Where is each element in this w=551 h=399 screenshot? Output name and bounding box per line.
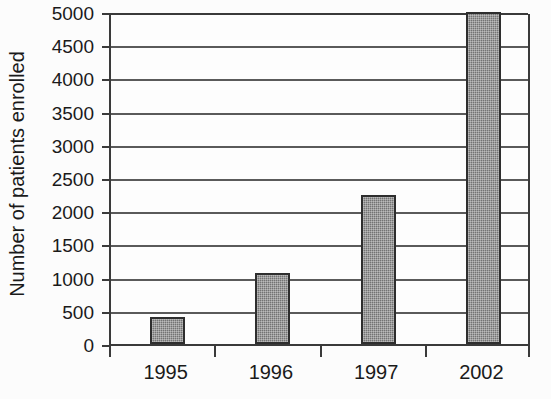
x-axis-tick-mark xyxy=(109,346,111,357)
x-axis: 1995199619972002 xyxy=(109,346,530,399)
y-axis-tick-label: 5000 xyxy=(52,3,94,25)
y-axis-title: Number of patients enrolled xyxy=(0,0,34,348)
x-axis-tick-mark xyxy=(528,346,530,357)
x-axis-tick-label: 1997 xyxy=(354,361,399,384)
y-axis-tick-label: 4500 xyxy=(52,36,94,58)
y-axis-tick-label: 1500 xyxy=(52,235,94,257)
y-axis-tick-label: 0 xyxy=(83,335,94,357)
y-axis-tick-mark xyxy=(102,79,111,81)
bar-chart-figure: Number of patients enrolled 050010001500… xyxy=(0,0,551,399)
x-axis-tick-mark xyxy=(320,346,322,357)
y-axis-tick-mark xyxy=(102,279,111,281)
y-axis-tick-mark xyxy=(102,312,111,314)
y-axis-tick-label: 3000 xyxy=(52,136,94,158)
y-axis-tick-label: 4000 xyxy=(52,69,94,91)
bar-1996 xyxy=(255,273,290,344)
x-axis-tick-label: 2002 xyxy=(459,361,504,384)
y-axis-tick-mark xyxy=(102,46,111,48)
y-axis-tick-mark xyxy=(102,245,111,247)
y-axis-tick-labels: 0500100015002000250030003500400045005000 xyxy=(34,0,102,399)
bar-2002 xyxy=(466,12,501,344)
y-axis-tick-label: 2500 xyxy=(52,169,94,191)
bar-1995 xyxy=(150,317,185,344)
y-axis-tick-label: 3500 xyxy=(52,103,94,125)
bar-1997 xyxy=(361,195,396,344)
y-axis-tick-mark xyxy=(102,146,111,148)
y-axis-tick-mark xyxy=(102,13,111,15)
y-axis-tick-mark xyxy=(102,179,111,181)
y-axis-tick-mark xyxy=(102,113,111,115)
x-axis-tick-label: 1995 xyxy=(143,361,188,384)
y-axis-tick-mark xyxy=(102,212,111,214)
x-axis-tick-mark xyxy=(214,346,216,357)
x-axis-tick-mark xyxy=(425,346,427,357)
y-axis-tick-label: 500 xyxy=(62,302,94,324)
y-axis-tick-label: 1000 xyxy=(52,269,94,291)
plot-area xyxy=(109,14,530,346)
y-axis-tick-label: 2000 xyxy=(52,202,94,224)
x-axis-tick-label: 1996 xyxy=(249,361,294,384)
